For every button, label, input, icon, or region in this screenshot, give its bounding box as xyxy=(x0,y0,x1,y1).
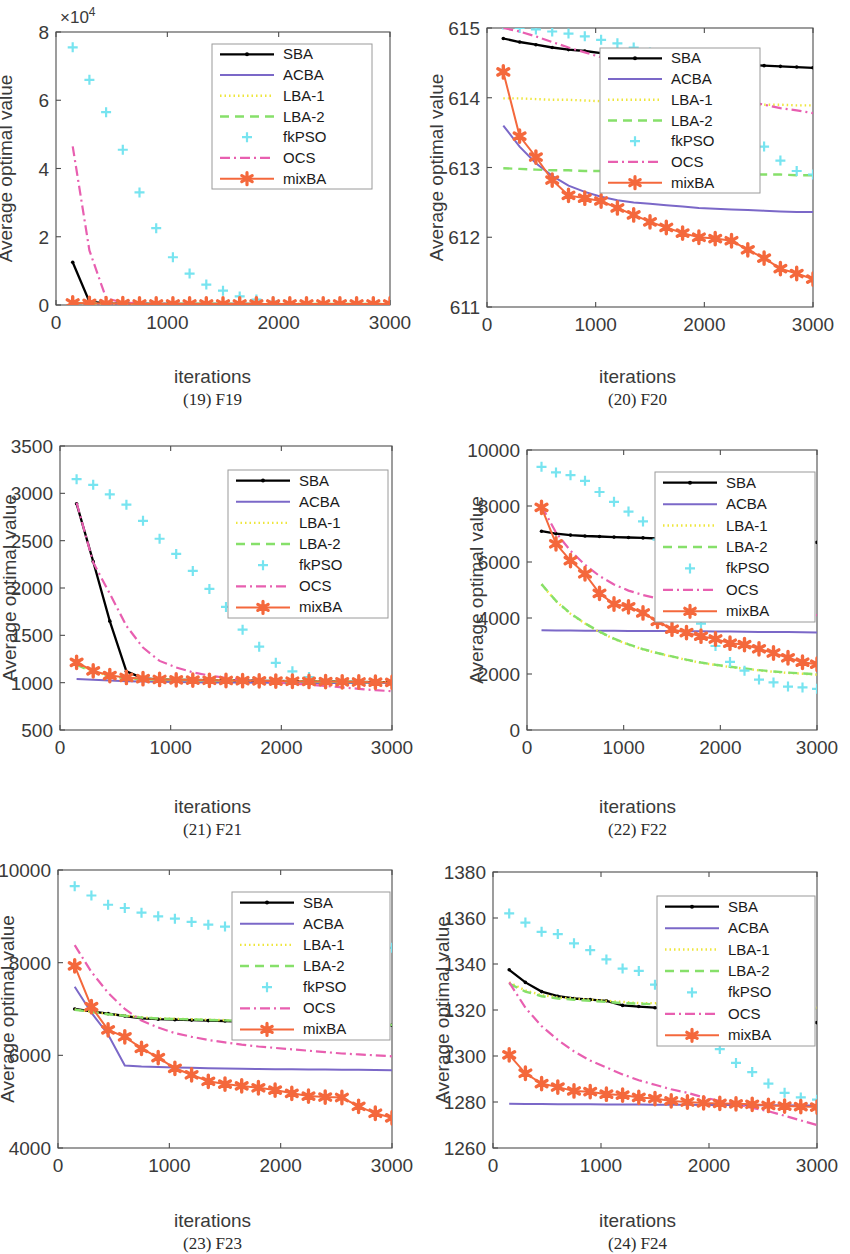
data-marker xyxy=(353,1100,364,1112)
x-tick-label: 0 xyxy=(51,312,62,333)
data-marker xyxy=(595,487,605,497)
x-tick-label: 0 xyxy=(482,314,493,335)
x-tick-label: 2000 xyxy=(699,737,741,758)
x-tick-label: 3000 xyxy=(792,314,834,335)
data-marker xyxy=(254,642,264,652)
data-marker xyxy=(564,29,574,39)
legend-marker-SBA xyxy=(688,481,692,485)
data-marker xyxy=(537,927,547,937)
series-mixBA xyxy=(509,1055,817,1107)
panel-caption: (20) F20 xyxy=(608,390,667,410)
chart-svg: 0100020003000611612613614615Average opti… xyxy=(425,0,850,354)
data-marker xyxy=(769,677,779,687)
x-tick-label: 3000 xyxy=(369,312,411,333)
legend-label-fkPSO: fkPSO xyxy=(726,559,769,576)
data-marker xyxy=(201,280,211,290)
data-marker xyxy=(627,536,631,540)
y-tick-label: 6 xyxy=(38,90,49,111)
legend-label-LBA-1: LBA-1 xyxy=(728,941,770,958)
legend-label-LBA-1: LBA-1 xyxy=(303,936,345,953)
data-marker xyxy=(151,223,161,233)
legend-marker-SBA xyxy=(261,479,265,483)
data-marker xyxy=(791,267,802,279)
data-marker xyxy=(370,1107,381,1119)
data-marker xyxy=(534,43,538,47)
y-tick-label: 615 xyxy=(448,18,480,39)
legend-label-ACBA: ACBA xyxy=(726,495,767,512)
data-marker xyxy=(551,467,561,477)
data-marker xyxy=(540,529,544,533)
chart-panel-20f20: 0100020003000611612613614615Average opti… xyxy=(425,0,850,410)
legend-label-mixBA: mixBA xyxy=(726,602,769,619)
legend-label-fkPSO: fkPSO xyxy=(299,556,342,573)
panel-caption: (22) F22 xyxy=(608,820,667,840)
plot-area: 0100020003000611612613614615Average opti… xyxy=(425,0,850,373)
legend-marker-SBA xyxy=(633,56,637,60)
plot-area: 0100020003000500100015002000250030003500… xyxy=(0,410,425,803)
data-marker xyxy=(537,462,547,472)
plot-area: 01000200030000200040006000800010000Avera… xyxy=(425,410,850,803)
y-tick-label: 613 xyxy=(448,158,480,179)
data-marker xyxy=(585,945,595,955)
data-marker xyxy=(507,968,511,972)
data-marker xyxy=(808,273,819,285)
y-axis-title: Average optimal value xyxy=(426,74,447,262)
chart-svg: 0100020003000126012801300132013401360138… xyxy=(425,840,850,1198)
data-marker xyxy=(740,666,750,676)
legend: SBAACBALBA-1LBA-2fkPSOOCSmixBA xyxy=(232,892,390,1040)
y-tick-label: 10000 xyxy=(467,440,520,461)
data-marker xyxy=(138,516,148,526)
legend-label-OCS: OCS xyxy=(303,999,336,1016)
plot-area: 0100020003000126012801300132013401360138… xyxy=(425,840,850,1217)
chart-svg: 010002000300040006000800010000Average op… xyxy=(0,840,425,1198)
data-marker xyxy=(783,682,793,692)
chart-panel-22f22: 01000200030000200040006000800010000Avera… xyxy=(425,410,850,840)
data-marker xyxy=(168,252,178,262)
data-marker xyxy=(747,1067,757,1077)
plot-area: 010002000300002468×104Average optimal va… xyxy=(0,0,425,373)
data-marker xyxy=(580,31,590,41)
y-tick-label: 1380 xyxy=(444,862,486,883)
data-marker xyxy=(70,881,80,891)
legend-label-mixBA: mixBA xyxy=(283,170,326,187)
data-marker xyxy=(271,658,281,668)
legend-marker-SBA xyxy=(245,52,249,56)
legend-label-LBA-1: LBA-1 xyxy=(671,91,713,108)
data-marker xyxy=(634,966,644,976)
legend-label-LBA-2: LBA-2 xyxy=(671,112,713,129)
data-marker xyxy=(812,684,822,694)
x-tick-label: 2000 xyxy=(258,312,300,333)
x-tick-label: 3000 xyxy=(796,737,838,758)
data-marker xyxy=(187,917,197,927)
data-marker xyxy=(569,533,573,537)
y-tick-label: 1260 xyxy=(444,1138,486,1159)
data-marker xyxy=(583,534,587,538)
data-marker xyxy=(120,903,130,913)
legend-label-LBA-1: LBA-1 xyxy=(299,514,341,531)
data-marker xyxy=(238,625,248,635)
data-marker xyxy=(783,652,794,664)
data-marker xyxy=(609,497,619,507)
x-tick-label: 1000 xyxy=(580,1155,622,1176)
x-tick-label: 2000 xyxy=(260,1155,302,1176)
legend-label-OCS: OCS xyxy=(671,153,704,170)
data-marker xyxy=(637,1005,641,1009)
x-tick-label: 1000 xyxy=(150,737,192,758)
x-tick-label: 1000 xyxy=(146,312,188,333)
data-marker xyxy=(218,286,228,296)
legend-label-SBA: SBA xyxy=(728,898,758,915)
plot-area: 010002000300040006000800010000Average op… xyxy=(0,840,425,1217)
data-marker xyxy=(101,107,111,117)
chart-svg: 01000200030000200040006000800010000Avera… xyxy=(425,410,850,784)
data-marker xyxy=(185,269,195,279)
data-marker xyxy=(108,619,112,623)
data-marker xyxy=(754,643,765,655)
data-marker xyxy=(153,1051,164,1063)
data-marker xyxy=(550,46,554,50)
y-axis-title: Average optimal value xyxy=(466,496,487,684)
data-marker xyxy=(103,900,113,910)
data-marker xyxy=(135,187,145,197)
y-axis-title: Average optimal value xyxy=(0,915,18,1103)
y-axis-title: Average optimal value xyxy=(432,916,453,1104)
legend-label-ACBA: ACBA xyxy=(303,915,344,932)
